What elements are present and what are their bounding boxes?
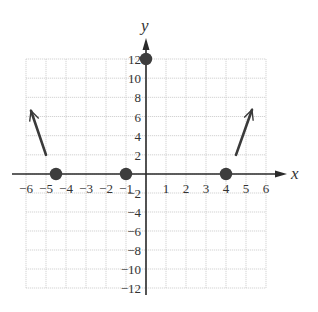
y-tick-label: 6 [135,110,142,125]
x-tick-label: −3 [79,181,93,196]
y-tick-label: −2 [127,186,141,201]
y-tick-label: −12 [121,281,141,296]
x-tick-label: 3 [203,181,210,196]
y-intercept-point [140,53,152,65]
polynomial-graph: y x −6−5−4−3−2−1123456 12108642−2−4−6−8−… [0,0,318,312]
y-tick-label: 2 [135,148,142,163]
y-tick-label: 4 [135,129,142,144]
x-intercept-point [50,168,62,180]
x-tick-label: 4 [223,181,230,196]
x-intercept-point [220,168,232,180]
x-tick-label: 2 [183,181,190,196]
x-tick-label: −5 [39,181,53,196]
axes: y x [12,16,299,295]
y-axis-label: y [139,16,149,35]
y-tick-label: 8 [135,90,142,105]
x-axis-arrow-icon [275,171,287,178]
end-behavior-arrow [31,111,46,155]
y-tick-label: 10 [128,71,141,86]
x-tick-label: −2 [99,181,113,196]
x-intercept-point [120,168,132,180]
y-tick-label: −8 [127,243,141,258]
x-tick-label: −6 [19,181,33,196]
y-tick-label: −10 [121,262,141,277]
x-tick-labels: −6−5−4−3−2−1123456 [19,181,270,196]
x-tick-label: 1 [163,181,170,196]
x-tick-label: 5 [243,181,250,196]
x-tick-label: 6 [263,181,270,196]
y-tick-label: 12 [128,52,141,67]
y-tick-label: −6 [127,224,141,239]
x-axis-label: x [290,164,299,183]
x-tick-label: −4 [59,181,73,196]
y-axis-arrow-icon [143,38,150,50]
y-tick-label: −4 [127,205,141,220]
